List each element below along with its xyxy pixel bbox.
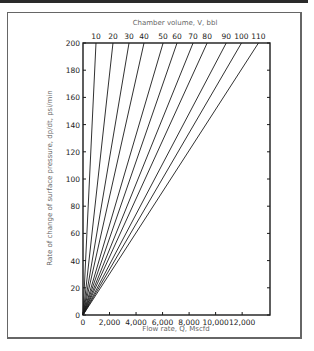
series-line-20 — [83, 43, 113, 315]
chamber-volume-label-30: 30 — [124, 32, 134, 41]
chamber-volume-label-60: 60 — [172, 32, 182, 41]
y-axis-title: Rate of change of surface pressure, dp/d… — [46, 90, 54, 265]
plot-area: 02040608010012014016018020002,0004,0006,… — [66, 32, 270, 327]
chamber-volume-label-10: 10 — [91, 32, 101, 41]
y-tick-label: 140 — [66, 121, 81, 130]
y-tick-label: 60 — [70, 229, 80, 238]
y-tick-label: 100 — [66, 175, 81, 184]
chamber-volume-label-90: 90 — [221, 32, 231, 41]
x-tick-label: 8,000 — [178, 318, 200, 327]
series-line-50 — [83, 43, 163, 315]
y-tick-label: 40 — [70, 257, 80, 266]
chamber-volume-label-70: 70 — [188, 32, 198, 41]
chamber-volume-label-100: 100 — [234, 32, 249, 41]
x-tick-label: 4,000 — [125, 318, 147, 327]
y-tick-label: 20 — [70, 284, 80, 293]
series-line-80 — [83, 43, 207, 315]
x-tick-label: 12,000 — [229, 318, 255, 327]
chamber-volume-label-40: 40 — [139, 32, 149, 41]
chamber-volume-label-20: 20 — [108, 32, 118, 41]
y-tick-label: 120 — [66, 148, 81, 157]
top-axis-title: Chamber volume, V, bbl — [133, 19, 218, 27]
chamber-volume-label-80: 80 — [202, 32, 212, 41]
chart-plot: Chamber volume, V, bbl Flow rate, Q, Msc… — [0, 0, 314, 351]
series-line-110 — [83, 43, 258, 315]
series-line-40 — [83, 43, 144, 315]
chamber-volume-label-110: 110 — [251, 32, 266, 41]
series-line-70 — [83, 43, 193, 315]
series-line-60 — [83, 43, 177, 315]
y-tick-label: 180 — [66, 66, 81, 75]
chamber-volume-label-50: 50 — [158, 32, 168, 41]
series-line-90 — [83, 43, 226, 315]
series-line-100 — [83, 43, 241, 315]
y-tick-label: 80 — [70, 202, 80, 211]
y-tick-label: 200 — [66, 39, 81, 48]
y-tick-label: 0 — [75, 311, 80, 320]
x-tick-label: 2,000 — [99, 318, 121, 327]
x-tick-label: 0 — [81, 318, 86, 327]
x-tick-label: 10,000 — [202, 318, 228, 327]
y-tick-label: 160 — [66, 93, 81, 102]
x-tick-label: 6,000 — [152, 318, 174, 327]
